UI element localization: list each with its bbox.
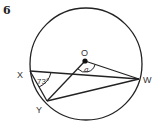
chord-yw (47, 79, 139, 101)
angle-label-x: 73° (37, 77, 49, 86)
label-y: Y (36, 105, 42, 115)
label-x: X (17, 70, 23, 80)
radius-ow (85, 61, 139, 79)
label-o: O (81, 48, 88, 58)
center-point-o (82, 58, 87, 63)
angle-label-o: a (84, 65, 89, 74)
circle (30, 8, 142, 120)
radius-oy (47, 61, 85, 101)
label-w: W (143, 75, 152, 85)
circle-geometry-diagram: 6 O X W Y 73° a (0, 0, 168, 125)
chord-xy (30, 71, 47, 101)
problem-number: 6 (3, 4, 11, 17)
